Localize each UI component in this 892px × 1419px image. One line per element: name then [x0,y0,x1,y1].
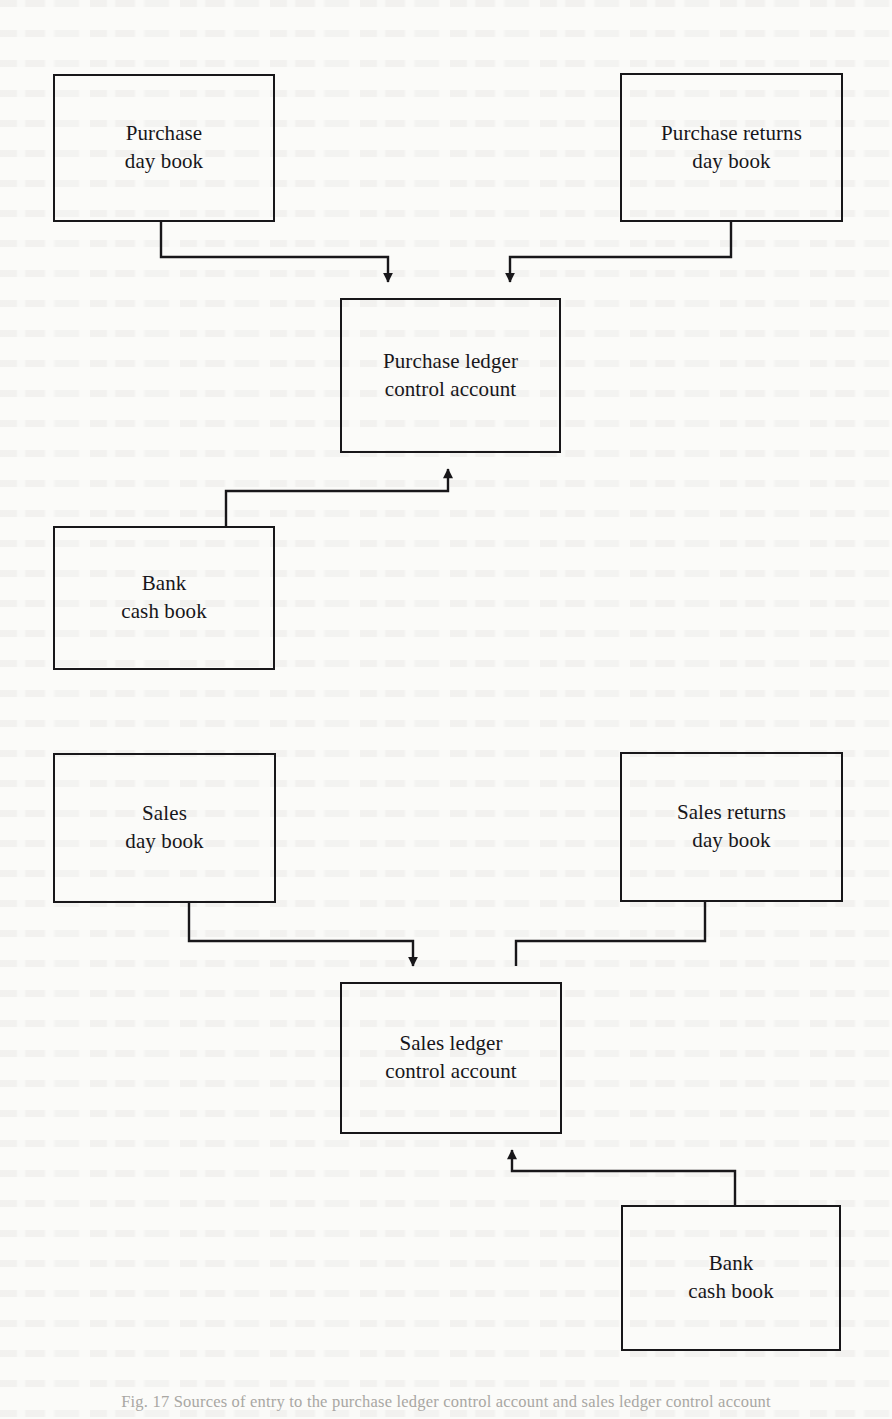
node-sales-day-book: Sales day book [53,753,276,903]
connector-sales-returns-to-sales-ledger [516,902,705,966]
connector-purchase-day-book-to-purchase-ledger [161,222,388,282]
node-bank-cash-book-upper: Bank cash book [53,526,275,670]
connector-sales-day-book-to-sales-ledger [189,903,413,966]
node-label-sales-ledger-control-account: Sales ledger control account [385,1030,517,1085]
node-label-sales-day-book: Sales day book [125,800,203,855]
node-bank-cash-book-lower: Bank cash book [621,1205,841,1351]
node-purchase-ledger-control-account: Purchase ledger control account [340,298,561,453]
node-sales-ledger-control-account: Sales ledger control account [340,982,562,1134]
node-purchase-day-book: Purchase day book [53,74,275,222]
connector-purchase-returns-to-purchase-ledger [510,222,731,282]
node-sales-returns-day-book: Sales returns day book [620,752,843,902]
figure-caption: Fig. 17 Sources of entry to the purchase… [0,1392,892,1419]
connector-bank-cash-book-to-purchase-ledger [226,469,448,526]
node-label-sales-returns-day-book: Sales returns day book [677,799,786,854]
node-label-purchase-ledger-control-account: Purchase ledger control account [383,348,518,403]
node-label-bank-cash-book-upper: Bank cash book [121,570,206,625]
node-purchase-returns-day-book: Purchase returns day book [620,73,843,222]
node-label-bank-cash-book-lower: Bank cash book [688,1250,773,1305]
connector-bank-cash-book-to-sales-ledger [512,1150,735,1205]
figure-page: Purchase day book Purchase returns day b… [0,0,892,1419]
node-label-purchase-day-book: Purchase day book [125,120,203,175]
node-label-purchase-returns-day-book: Purchase returns day book [661,120,802,175]
